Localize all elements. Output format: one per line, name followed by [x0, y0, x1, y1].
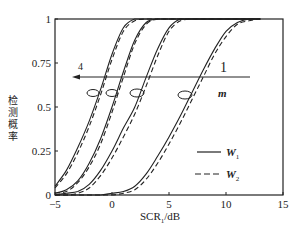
x-tick-label: 15	[278, 198, 290, 210]
ellipse-marker-m1	[178, 91, 192, 99]
y-tick-label: 1	[46, 13, 52, 25]
ellipse-marker-m4	[87, 90, 99, 97]
arrow-head-icon	[72, 75, 80, 80]
x-axis-title-unit: /dB	[164, 210, 180, 222]
legend: W1 W2	[195, 146, 240, 183]
arrow-variable-label: m	[218, 87, 227, 99]
x-axis-title: SCR1/dB	[140, 210, 180, 225]
y-tick-label: 0.5	[37, 101, 51, 113]
y-tick-label: 0.25	[32, 145, 52, 157]
arrow-start-label: 1	[220, 60, 227, 75]
ellipse-marker-m2	[130, 89, 144, 97]
legend-label-w1: W1	[226, 146, 240, 161]
x-tick-label: 0	[109, 198, 115, 210]
detection-probability-chart: −5051015 00.250.50.751 SCR1/dB 1 4 m W1 …	[0, 0, 302, 236]
legend-label-w2: W2	[226, 168, 240, 183]
x-tick-label: 10	[221, 198, 233, 210]
x-axis-title-main: SCR	[140, 210, 161, 222]
arrow-end-label: 4	[78, 61, 83, 72]
y-tick-label: 0.75	[32, 57, 52, 69]
plot-frame	[55, 19, 283, 195]
y-axis-ticks: 00.250.50.751	[32, 13, 58, 201]
x-tick-label: 5	[166, 198, 172, 210]
y-axis-title: 检测概率	[6, 95, 20, 143]
y-tick-label: 0	[46, 189, 52, 201]
curve-w1-m-4	[55, 19, 260, 186]
